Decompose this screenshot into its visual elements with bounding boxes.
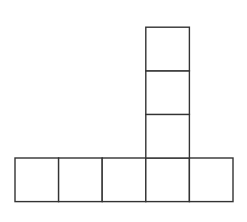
- square-row-3: [102, 158, 146, 202]
- square-col-3: [146, 27, 190, 71]
- square-row-2: [59, 158, 103, 202]
- square-row-1: [15, 158, 59, 202]
- grid-diagram: [0, 0, 247, 222]
- square-row-4: [146, 158, 190, 202]
- square-col-2: [146, 71, 190, 115]
- square-col-1: [146, 114, 190, 158]
- square-row-5: [189, 158, 233, 202]
